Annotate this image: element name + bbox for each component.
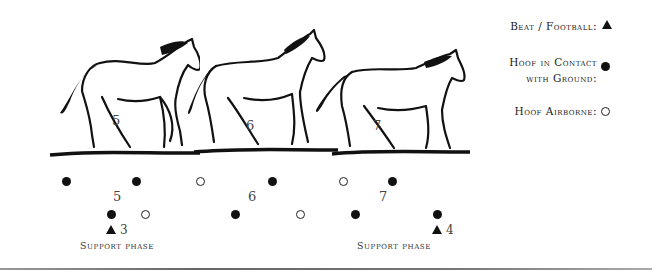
- hoof-contact-icon: [132, 177, 141, 186]
- footfall-number-7: 7: [379, 189, 387, 204]
- beat-triangle-icon: [106, 225, 116, 234]
- hoof-airborne-icon: [141, 210, 150, 219]
- hoof-contact-icon: [388, 177, 397, 186]
- legend-beat-label: Beat / Football:: [437, 20, 597, 32]
- horse-illustration-5: [30, 35, 200, 157]
- horse-number-7: 7: [373, 118, 381, 133]
- support-phase-label: Support Phase: [357, 240, 431, 251]
- footfall-number-5: 5: [113, 189, 121, 204]
- hoof-contact-icon: [433, 210, 442, 219]
- beat-label-3: 3: [120, 223, 128, 237]
- legend-airborne-label: Hoof Airborne:: [437, 105, 597, 117]
- hoof-airborne-icon: [339, 177, 348, 186]
- hoof-contact-icon: [268, 177, 277, 186]
- support-phase-label: Support Phase: [80, 240, 154, 251]
- beat-triangle-icon: [432, 225, 442, 234]
- legend-contact-label-line1: Hoof in Contact: [437, 56, 597, 68]
- hoof-airborne-icon: [196, 177, 205, 186]
- horse-number-6: 6: [246, 118, 254, 133]
- hoof-contact-icon: [107, 210, 116, 219]
- legend-contact-label-line2: with Ground:: [437, 72, 597, 84]
- hoof-airborne-icon: [296, 210, 305, 219]
- legend-filled-circle-icon: [601, 62, 610, 71]
- hoof-contact-icon: [62, 177, 71, 186]
- legend-open-circle-icon: [601, 107, 610, 116]
- hoof-contact-icon: [351, 210, 360, 219]
- footfall-number-6: 6: [248, 189, 256, 204]
- horse-number-5: 5: [112, 113, 120, 128]
- bottom-divider: [0, 268, 652, 270]
- legend-triangle-icon: [602, 20, 612, 29]
- beat-label-4: 4: [446, 223, 454, 237]
- hoof-contact-icon: [231, 210, 240, 219]
